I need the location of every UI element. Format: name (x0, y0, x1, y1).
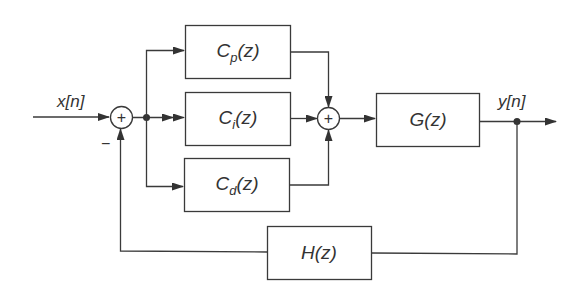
input-label: x[n] (56, 92, 86, 111)
cp-input-arrow (147, 51, 185, 118)
cd-block: Cd(z) (185, 159, 290, 212)
ci-block: Ci(z) (186, 93, 291, 146)
h-label: H(z) (301, 242, 337, 263)
cd-input-arrow (147, 118, 184, 187)
pid-block-diagram: x[n] + − Cp(z) Ci(z) Cd(z) + G(z) y[n] (0, 0, 585, 299)
cp-output-arrow (291, 52, 329, 107)
svg-text:+: + (324, 110, 333, 127)
cp-block: Cp(z) (186, 26, 291, 79)
cd-output-arrow (290, 130, 329, 185)
plus-sign: + (117, 109, 126, 126)
output-label: y[n] (497, 92, 527, 111)
h-block: H(z) (268, 227, 372, 280)
g-block: G(z) (377, 94, 480, 147)
summing-junction-1: + (111, 107, 133, 129)
g-label: G(z) (410, 109, 447, 130)
summing-junction-2: + (318, 108, 340, 130)
minus-sign: − (101, 135, 110, 152)
